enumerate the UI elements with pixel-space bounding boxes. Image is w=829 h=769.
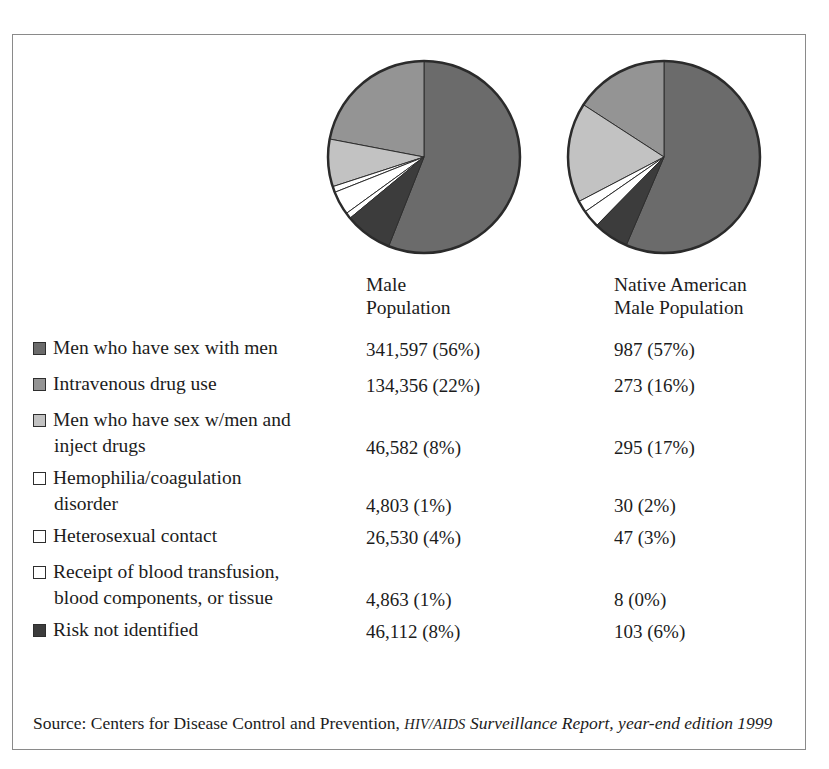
table-row: Intravenous drug use134,356 (22%)273 (16… — [13, 371, 805, 407]
column-header-male-line1: Male — [366, 273, 451, 296]
legend-entry: Men who have sex with men — [33, 335, 343, 361]
cell-native-american-male-population: 8 (0%) — [614, 589, 666, 611]
column-header-native-line1: Native American — [614, 273, 747, 296]
legend-entry: Hemophilia/coagulationdisorder — [33, 465, 343, 517]
table-row: Heterosexual contact26,530 (4%)47 (3%) — [13, 523, 805, 559]
legend-label: Men who have sex w/men and — [53, 409, 291, 430]
column-header-male-line2: Population — [366, 296, 451, 319]
cell-male-population: 46,582 (8%) — [366, 437, 461, 459]
cell-native-american-male-population: 47 (3%) — [614, 527, 676, 549]
figure-frame: Male Population Native American Male Pop… — [12, 34, 806, 750]
cell-male-population: 134,356 (22%) — [366, 375, 480, 397]
table-row: Men who have sex w/men andinject drugs46… — [13, 407, 805, 465]
legend-swatch-icon — [33, 566, 46, 579]
table-row: Risk not identified46,112 (8%)103 (6%) — [13, 617, 805, 653]
legend-entry: Risk not identified — [33, 617, 343, 643]
source-publication-italic: Surveillance Report, year-end edition 19… — [466, 713, 773, 733]
table-row: Hemophilia/coagulationdisorder4,803 (1%)… — [13, 465, 805, 523]
cell-male-population: 26,530 (4%) — [366, 527, 461, 549]
legend-swatch-icon — [33, 414, 46, 427]
legend-entry: Men who have sex w/men andinject drugs — [33, 407, 343, 459]
pie-male-svg — [324, 57, 524, 257]
legend-label: Risk not identified — [53, 619, 198, 640]
column-header-native-line2: Male Population — [614, 296, 747, 319]
cell-male-population: 4,863 (1%) — [366, 589, 451, 611]
table-row: Receipt of blood transfusion,blood compo… — [13, 559, 805, 617]
cell-native-american-male-population: 273 (16%) — [614, 375, 695, 397]
legend-data-table: Men who have sex with men341,597 (56%)98… — [13, 335, 805, 653]
legend-swatch-icon — [33, 530, 46, 543]
legend-label: Intravenous drug use — [53, 373, 217, 394]
legend-swatch-icon — [33, 378, 46, 391]
column-headers: Male Population Native American Male Pop… — [13, 273, 805, 335]
pie-chart-group — [13, 35, 805, 263]
cell-native-american-male-population: 103 (6%) — [614, 621, 685, 643]
column-header-male-population: Male Population — [366, 273, 451, 319]
legend-entry: Intravenous drug use — [33, 371, 343, 397]
legend-entry: Receipt of blood transfusion,blood compo… — [33, 559, 343, 611]
cell-male-population: 4,803 (1%) — [366, 495, 451, 517]
legend-label: Receipt of blood transfusion, — [53, 561, 279, 582]
pie-native-american-svg — [564, 57, 764, 257]
legend-swatch-icon — [33, 472, 46, 485]
legend-label: Hemophilia/coagulation — [53, 467, 241, 488]
legend-label-line2: inject drugs — [54, 433, 343, 459]
legend-label-line2: blood components, or tissue — [54, 585, 343, 611]
cell-native-american-male-population: 30 (2%) — [614, 495, 676, 517]
legend-entry: Heterosexual contact — [33, 523, 343, 549]
cell-native-american-male-population: 295 (17%) — [614, 437, 695, 459]
cell-male-population: 46,112 (8%) — [366, 621, 460, 643]
legend-label-line2: disorder — [54, 491, 343, 517]
legend-swatch-icon — [33, 342, 46, 355]
pie-chart-male-population — [324, 57, 524, 257]
table-row: Men who have sex with men341,597 (56%)98… — [13, 335, 805, 371]
legend-label: Heterosexual contact — [53, 525, 217, 546]
page-top-margin — [0, 0, 829, 30]
source-prefix: Source: Centers for Disease Control and … — [33, 713, 404, 733]
legend-swatch-icon — [33, 624, 46, 637]
column-header-native-american-male-population: Native American Male Population — [614, 273, 747, 319]
legend-label: Men who have sex with men — [53, 337, 278, 358]
source-note: Source: Centers for Disease Control and … — [33, 712, 772, 735]
cell-male-population: 341,597 (56%) — [366, 339, 480, 361]
cell-native-american-male-population: 987 (57%) — [614, 339, 695, 361]
source-publication-smallcaps: HIV/AIDS — [404, 716, 465, 732]
pie-chart-native-american-male-population — [564, 57, 764, 257]
